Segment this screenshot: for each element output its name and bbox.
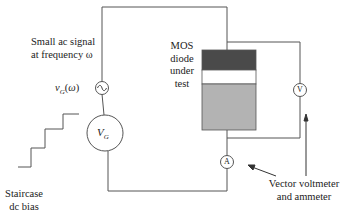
mos-label: MOS diode under test <box>162 40 202 90</box>
mos-line3: under <box>162 65 202 78</box>
wire-bottom <box>108 151 227 191</box>
ac-signal-label: Small ac signal at frequency ω <box>31 36 95 61</box>
arrow-head-up <box>304 114 308 121</box>
ac-signal-line2: at frequency ω <box>31 49 95 62</box>
mos-line4: test <box>162 78 202 91</box>
arrow-to-ammeter <box>252 167 276 176</box>
metal-layer <box>202 50 256 70</box>
meter-line2: and ammeter <box>262 191 344 204</box>
mos-line2: diode <box>162 53 202 66</box>
semiconductor-layer <box>202 84 256 130</box>
ammeter-symbol: A <box>221 156 233 169</box>
ac-signal-line1: Small ac signal <box>31 36 95 49</box>
ac-source-icon <box>96 82 109 95</box>
mos-line1: MOS <box>162 40 202 53</box>
voltmeter-symbol: V <box>294 84 306 97</box>
meter-line1: Vector voltmeter <box>262 178 344 191</box>
meter-label: Vector voltmeter and ammeter <box>262 178 344 203</box>
pointer-arrows <box>248 114 308 176</box>
arrow-head-left <box>248 165 255 170</box>
vg-small-label: vG(ω) <box>55 82 79 99</box>
mos-diode <box>202 50 256 130</box>
vg-dc-label: VG <box>97 126 109 144</box>
oxide-layer <box>202 70 256 84</box>
wire-ac-to-dc <box>102 94 104 115</box>
staircase-label: Staircase dc bias <box>0 188 48 213</box>
wires <box>102 7 300 191</box>
staircase-line1: Staircase <box>0 188 48 201</box>
staircase-line2: dc bias <box>0 201 48 214</box>
staircase-icon <box>18 114 79 167</box>
